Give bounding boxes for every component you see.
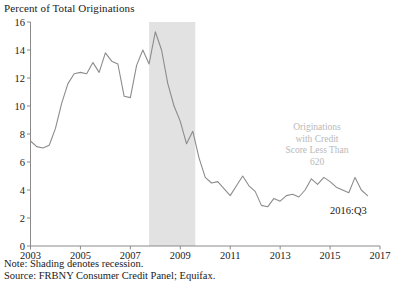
annotation-line: 620 (262, 157, 372, 169)
x-axis-tick-label: 2013 (260, 250, 300, 261)
recession-shading (149, 22, 195, 246)
x-axis-tick-label: 2011 (210, 250, 250, 261)
y-axis-tick-label: 6 (5, 157, 25, 168)
data-series-line (31, 32, 368, 207)
annotation-line: Originations (262, 122, 372, 134)
x-axis-tick-label: 2009 (160, 250, 200, 261)
y-axis-tick-label: 12 (5, 73, 25, 84)
note-text: Note: Shading denotes recession. (4, 258, 143, 269)
source-text: Source: FRBNY Consumer Credit Panel; Equ… (4, 270, 215, 281)
y-axis-tick-label: 16 (5, 17, 25, 28)
x-axis-tick-label: 2015 (310, 250, 350, 261)
annotation-line: with Credit (262, 134, 372, 146)
y-axis-tick-label: 14 (5, 45, 25, 56)
chart-container: Percent of Total Originations 0246810121… (0, 0, 395, 282)
y-axis-tick-label: 10 (5, 101, 25, 112)
y-axis-tick-label: 8 (5, 129, 25, 140)
annotation-line: Score Less Than (262, 145, 372, 157)
end-value-label: 2016:Q3 (330, 205, 367, 216)
series-annotation: Originationswith CreditScore Less Than62… (262, 122, 372, 168)
x-axis-tick-label: 2017 (360, 250, 395, 261)
y-axis-tick-label: 4 (5, 185, 25, 196)
y-axis-tick-label: 2 (5, 213, 25, 224)
